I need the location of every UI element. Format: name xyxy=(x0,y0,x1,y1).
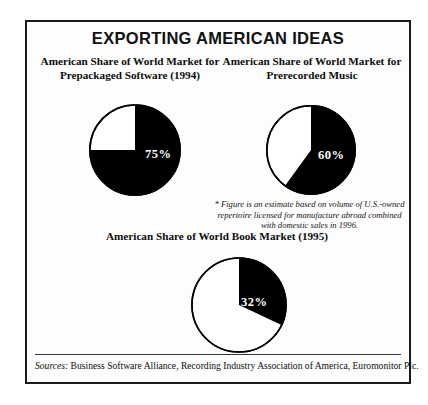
chart-title-books: American Share of World Book Market (199… xyxy=(67,230,367,244)
pie-chart-books: 32% xyxy=(190,256,288,354)
sources-text: Business Software Alliance, Recording In… xyxy=(68,360,418,371)
figure-frame: EXPORTING AMERICAN IDEAS American Share … xyxy=(25,20,411,384)
chart-title-software: American Share of World Market for Prepa… xyxy=(35,55,225,82)
pie-value-label-music: 60% xyxy=(318,148,345,163)
sources-divider xyxy=(35,354,401,355)
pie-value-label-books: 32% xyxy=(241,295,268,310)
pie-books-svg xyxy=(190,256,288,354)
sources-line: Sources: Business Software Alliance, Rec… xyxy=(35,360,403,371)
pie-chart-software: 75% xyxy=(88,103,182,197)
pie-chart-music: 60% xyxy=(265,104,357,196)
chart-title-music: American Share of World Market for Prere… xyxy=(217,55,407,82)
music-footnote: * Figure is an estimate based on volume … xyxy=(212,199,407,231)
figure-title: EXPORTING AMERICAN IDEAS xyxy=(27,29,409,48)
sources-label: Sources: xyxy=(35,360,68,371)
pie-value-label-software: 75% xyxy=(145,147,172,162)
